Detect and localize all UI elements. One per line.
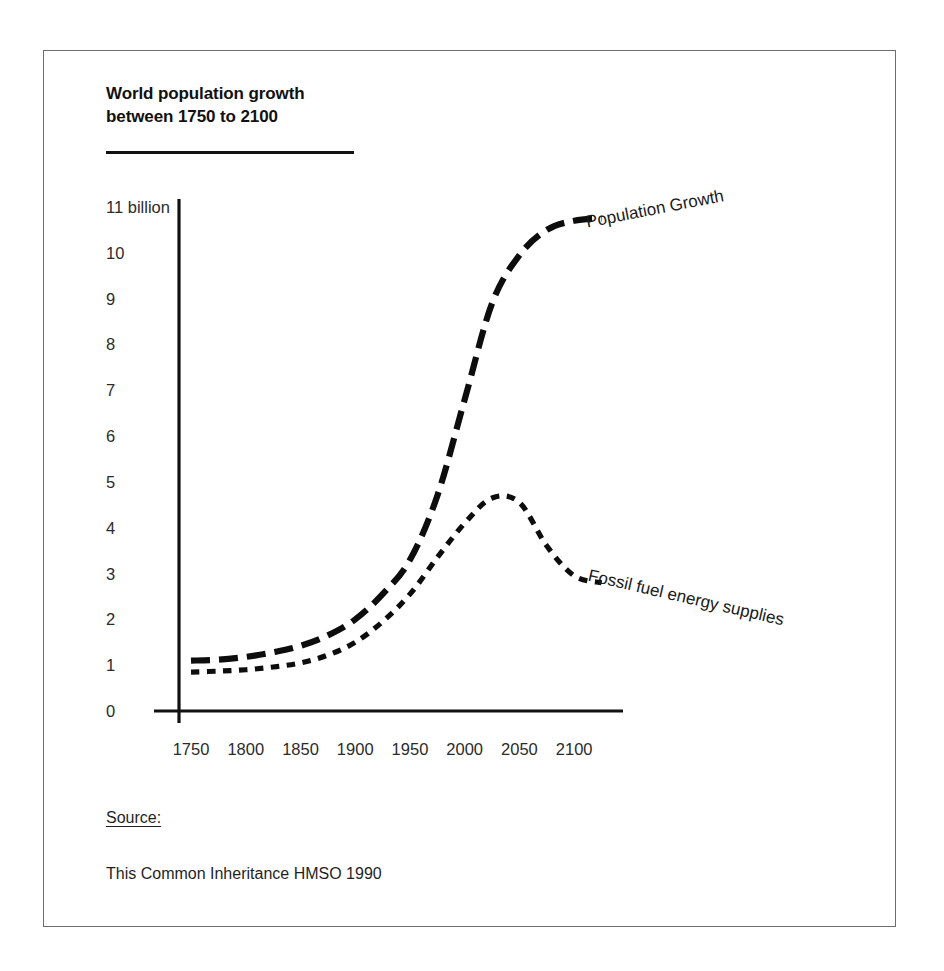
chart-plot-area: 11 billion109876543210 17501800185019001…: [44, 51, 897, 928]
figure-border: World population growth between 1750 to …: [43, 50, 896, 927]
population-growth-line-chart: 11 billion109876543210 17501800185019001…: [44, 51, 897, 928]
x-axis-tick-label: 1750: [173, 740, 210, 758]
y-axis-tick-label: 8: [106, 335, 115, 353]
source-citation: This Common Inheritance HMSO 1990: [106, 865, 706, 883]
x-axis-tick-label: 1900: [337, 740, 374, 758]
y-axis-tick-label: 2: [106, 610, 115, 628]
series-line-population-growth: [191, 218, 602, 660]
y-axis-tick-labels: 11 billion109876543210: [106, 198, 170, 720]
y-axis-tick-label: 7: [106, 381, 115, 399]
chart-series-labels: Population GrowthFossil fuel energy supp…: [584, 186, 785, 629]
series-annotation-label: Population Growth: [584, 186, 725, 231]
source-block: Source: This Common Inheritance HMSO 199…: [106, 809, 706, 883]
y-axis-tick-label: 3: [106, 565, 115, 583]
source-heading: Source:: [106, 809, 706, 827]
x-axis-tick-labels: 17501800185019001950200020502100: [173, 740, 593, 758]
y-axis-tick-label: 5: [106, 473, 115, 491]
y-axis-tick-label: 11 billion: [106, 198, 170, 216]
x-axis-tick-label: 2000: [446, 740, 483, 758]
x-axis-tick-label: 1950: [392, 740, 429, 758]
x-axis-tick-label: 2100: [556, 740, 593, 758]
chart-series-group: [191, 218, 602, 672]
series-annotation-label: Fossil fuel energy supplies: [586, 566, 785, 630]
y-axis-tick-label: 0: [106, 702, 115, 720]
x-axis-tick-label: 1800: [227, 740, 264, 758]
y-axis-tick-label: 1: [106, 656, 115, 674]
y-axis-tick-label: 6: [106, 427, 115, 445]
y-axis-tick-label: 9: [106, 290, 115, 308]
y-axis-tick-label: 4: [106, 519, 115, 537]
y-axis-tick-label: 10: [106, 244, 124, 262]
x-axis-tick-label: 1850: [282, 740, 319, 758]
x-axis-tick-label: 2050: [501, 740, 538, 758]
